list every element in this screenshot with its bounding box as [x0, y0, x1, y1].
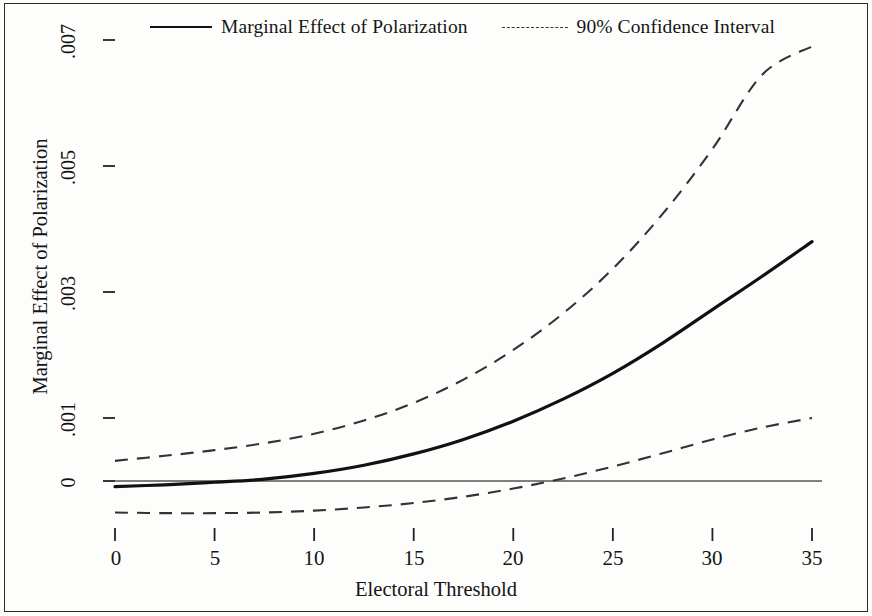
confidence-interval-upper-curve [115, 46, 812, 461]
figure-container: Marginal Effect of Polarization 90% Conf… [0, 0, 872, 616]
marginal-effect-curve [115, 242, 812, 487]
tick-marks [103, 40, 812, 541]
plot-area [0, 0, 872, 616]
confidence-interval-lower-curve [115, 418, 812, 513]
